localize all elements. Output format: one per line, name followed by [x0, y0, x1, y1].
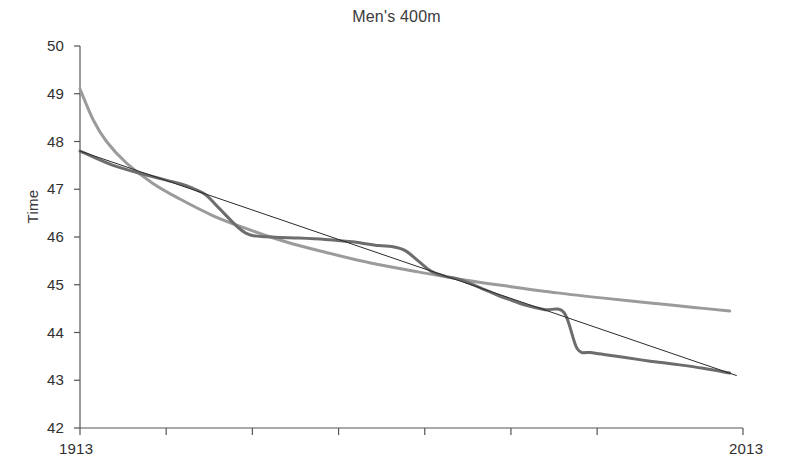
x-tick-label: 2013 — [729, 440, 763, 457]
chart-canvas: Men's 400m Time 504948474645444342 19132… — [0, 0, 793, 474]
y-tick-label: 42 — [28, 419, 64, 436]
series-linear-fit — [80, 151, 736, 375]
series-lines — [80, 89, 736, 376]
series-exponential-fit — [80, 89, 730, 311]
axis-lines — [80, 46, 743, 428]
tick-marks — [74, 46, 743, 435]
y-tick-label: 50 — [28, 37, 64, 54]
plot-area — [0, 0, 793, 474]
y-tick-label: 47 — [28, 180, 64, 197]
y-tick-label: 45 — [28, 276, 64, 293]
y-tick-label: 43 — [28, 371, 64, 388]
y-tick-label: 46 — [28, 228, 64, 245]
y-tick-label: 48 — [28, 133, 64, 150]
x-tick-label: 1913 — [59, 440, 93, 457]
y-tick-label: 44 — [28, 324, 64, 341]
y-tick-label: 49 — [28, 85, 64, 102]
